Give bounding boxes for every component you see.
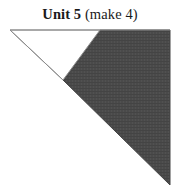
quilt-block-diagram [0,0,180,196]
quilt-unit-figure: Unit 5 (make 4) [0,0,180,196]
